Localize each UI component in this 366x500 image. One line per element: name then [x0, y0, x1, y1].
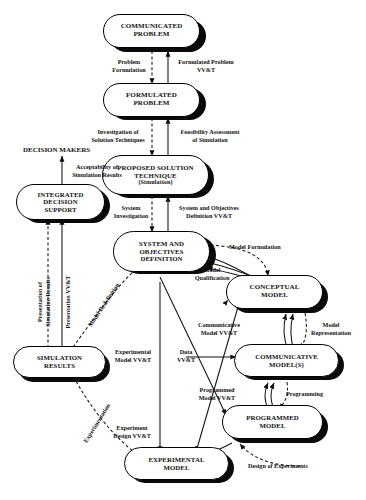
label-model-formulation: Model Formulation — [229, 243, 281, 251]
label-design-of-experiments: Design of Experiments — [248, 462, 308, 470]
node-line: PROPOSED SOLUTION — [117, 164, 193, 172]
node-line: SUPPORT — [44, 206, 76, 214]
label-presentation-vvt: Presentation VV&T — [64, 266, 72, 338]
label-data-vvt: DataVV&T — [170, 348, 202, 363]
label-system-and-objectives-definition-vvt: System and ObjectivesDefinition VV&T — [171, 204, 247, 219]
label-model-qualification: ModelQualification — [190, 266, 234, 281]
node-line: PROBLEM — [133, 31, 169, 39]
label-communicative-model-vvt: CommunicativeModel VV&T — [190, 321, 248, 336]
node-line: PROBLEM — [133, 100, 169, 108]
node-simulation-results[interactable]: SIMULATION RESULTS — [13, 346, 106, 378]
node-line: MODEL — [163, 464, 189, 472]
node-line: DEFINITION — [140, 255, 182, 263]
node-line: (Simulation) — [138, 179, 172, 186]
label-programming: Programming — [286, 390, 323, 398]
node-line: INTEGRATED — [37, 191, 83, 199]
label-model-representation: ModelRepresentation — [308, 321, 354, 336]
node-line: DECISION — [43, 198, 77, 206]
label-acceptability-of-simulation-results: Acceptability ofSimulation Results — [66, 163, 128, 178]
diagram-canvas: COMMUNICATED PROBLEM FORMULATED PROBLEM … — [0, 0, 366, 500]
label-programmed-model-vvt: ProgrammedModel VV&T — [188, 386, 246, 401]
label-experimental-model-vvt: ExperimentalModel VV&T — [108, 348, 158, 363]
node-line: SIMULATION — [37, 354, 82, 362]
node-decision-makers: DECISION MAKERS — [23, 146, 90, 154]
node-conceptual-model[interactable]: CONCEPTUAL MODEL — [226, 275, 323, 309]
node-line: MODEL — [261, 292, 288, 300]
node-programmed-model[interactable]: PROGRAMMED MODEL — [222, 405, 323, 439]
node-integrated-decision-support[interactable]: INTEGRATED DECISION SUPPORT — [16, 184, 105, 220]
label-system-investigation: SystemInvestigation — [110, 204, 152, 219]
node-line: COMMUNICATIVE — [255, 353, 318, 361]
node-line: MODEL(S) — [269, 361, 304, 369]
node-formulated-problem[interactable]: FORMULATED PROBLEM — [103, 83, 200, 117]
label-feasibility-assessment-of-simulation: Feasibility Assessmentof Simulation — [171, 128, 249, 143]
label-experiment-design-vvt: ExperimentDesign VV&T — [108, 424, 156, 439]
node-communicative-models[interactable]: COMMUNICATIVE MODEL(S) — [234, 344, 339, 377]
node-line: OBJECTIVES — [139, 248, 183, 256]
label-problem-formulation: ProblemFormulation — [106, 58, 152, 73]
node-experimental-model[interactable]: EXPERIMENTAL MODEL — [124, 447, 229, 480]
node-communicated-problem[interactable]: COMMUNICATED PROBLEM — [103, 14, 200, 48]
node-line: MODEL — [259, 422, 285, 430]
label-investigation-of-solution-techniques: Investigation ofSolution Techniques — [84, 128, 152, 143]
node-line: EXPERIMENTAL — [148, 456, 204, 464]
label-formulated-problem-vvt: Formulated ProblemVV&T — [171, 58, 241, 73]
node-line: PROGRAMMED — [246, 414, 299, 422]
label-presentation-of-simulation-results: Presentation ofSimulation Results — [36, 266, 51, 338]
node-line: SYSTEM AND — [139, 240, 184, 248]
node-line: RESULTS — [44, 362, 75, 370]
